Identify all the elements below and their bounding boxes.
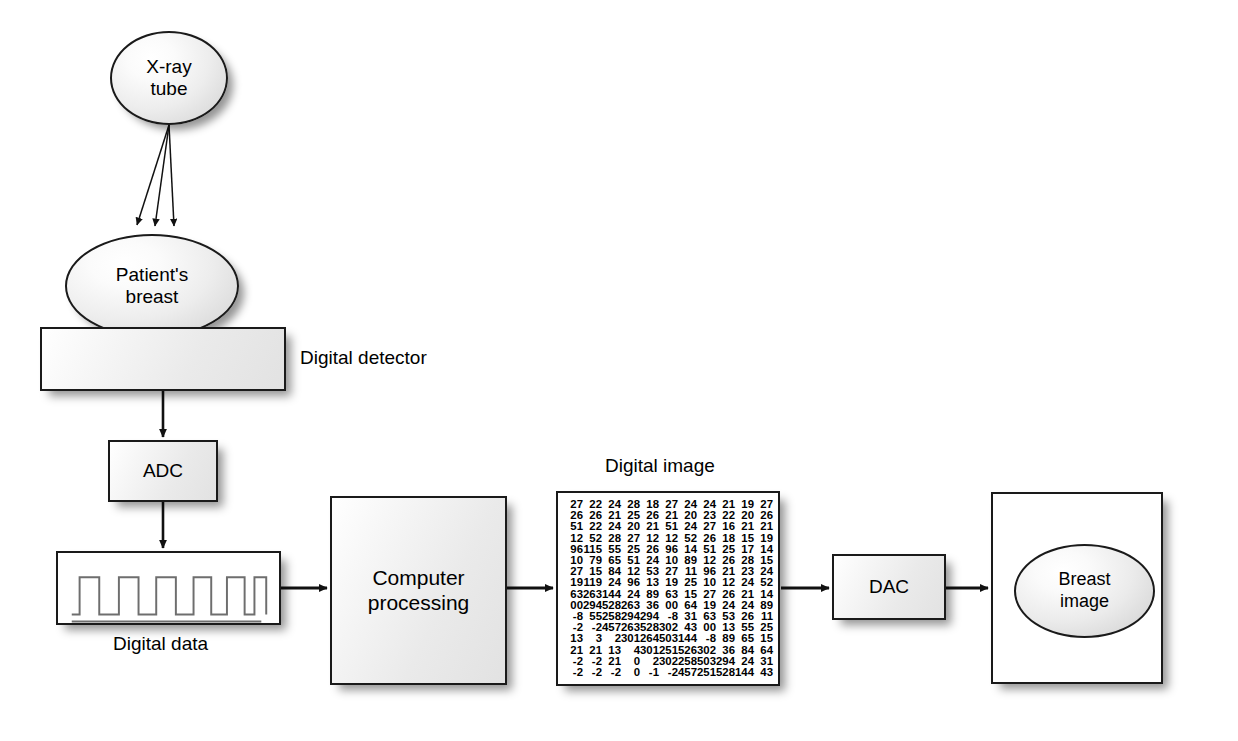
matrix-row: 5122242021512427162121 [564,521,774,532]
matrix-cell: 89 [716,633,735,644]
matrix-cell: -2 [659,667,678,678]
matrix-cell: 13 [640,577,659,588]
digital-detector-label: Digital detector [300,347,427,369]
digital-image-title: Digital image [605,455,715,477]
matrix-cell: -2 [583,667,602,678]
matrix-cell: 503 [659,633,678,644]
matrix-cell: 144 [678,633,697,644]
matrix-cell: 51 [659,521,678,532]
matrix-cell: 22 [583,521,602,532]
matrix-cell: 43 [754,667,773,678]
matrix-cell: 13 [564,633,583,644]
dac-label: DAC [869,576,909,598]
matrix-cell: 21 [640,521,659,532]
matrix-cell: 20 [621,521,640,532]
xray-tube-label: X-ray tube [146,56,191,101]
adc-node: ADC [108,440,218,502]
xray-tube-node: X-ray tube [110,31,228,125]
matrix-cell: 251 [697,667,716,678]
matrix-row: 19119249613192510122452 [564,577,774,588]
computer-processing-node: Computer processing [330,496,507,685]
matrix-cell: 528 [716,667,735,678]
square-wave-icon [58,551,279,625]
matrix-cell: 15 [754,633,773,644]
matrix-cell: 24 [602,521,621,532]
matrix-cell: 457 [678,667,697,678]
breast-image-ellipse: Breast image [1014,544,1155,638]
matrix-cell: -2 [564,667,583,678]
matrix-cell: 3 [583,633,602,644]
xray-beam-group [137,125,174,226]
digital-detector-node [40,327,286,391]
matrix-cell: -8 [697,633,716,644]
matrix-cell: 52 [754,577,773,588]
diagram-canvas: X-ray tube Patient's breast Digital dete… [0,0,1238,741]
matrix-cell: 12 [716,577,735,588]
matrix-cell: -1 [640,667,659,678]
computer-processing-label: Computer processing [368,566,470,616]
matrix-cell: 24 [678,521,697,532]
matrix-cell: 27 [697,521,716,532]
matrix-row: 1332301264503144-8896515 [564,633,774,644]
matrix-cell: 24 [735,577,754,588]
pixel-value-matrix: 2722242818272424211927262621252621202322… [564,499,774,678]
matrix-cell: 10 [697,577,716,588]
matrix-cell: 16 [716,521,735,532]
patient-breast-node: Patient's breast [65,234,239,338]
matrix-cell: 65 [735,633,754,644]
matrix-cell: 119 [583,577,602,588]
matrix-cell: 144 [735,667,754,678]
matrix-cell: 96 [621,577,640,588]
matrix-cell: 0 [621,667,640,678]
matrix-cell: 24 [602,577,621,588]
breast-image-label: Breast image [1058,569,1110,612]
matrix-cell: 301 [621,633,640,644]
matrix-cell: 21 [735,521,754,532]
matrix-cell: 19 [564,577,583,588]
digital-data-label: Digital data [113,633,208,655]
digital-image-node: 2722242818272424211927262621252621202322… [556,491,780,686]
dac-node: DAC [832,554,946,620]
matrix-cell: 19 [659,577,678,588]
matrix-cell: 25 [678,577,697,588]
matrix-cell: 264 [640,633,659,644]
matrix-cell: 51 [564,521,583,532]
breast-image-node: Breast image [991,492,1163,684]
patient-breast-label: Patient's breast [116,264,188,309]
matrix-cell: 2 [602,633,621,644]
matrix-cell: 21 [754,521,773,532]
matrix-cell: -2 [602,667,621,678]
matrix-row: -2-2-20-1-245725152814443 [564,667,774,678]
digital-data-node [56,551,281,625]
adc-label: ADC [143,460,183,482]
